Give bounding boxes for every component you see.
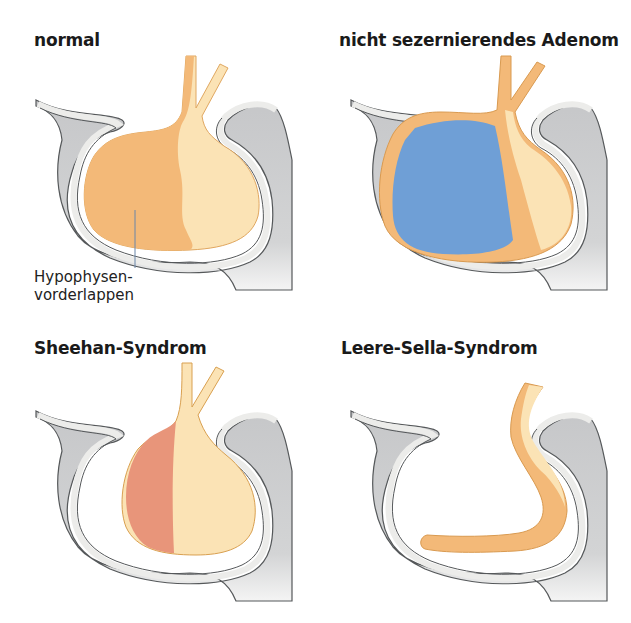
panel-title: Leere-Sella-Syndrom	[341, 338, 537, 358]
panel-normal-text: normal Hypophysen- vorderlappen	[0, 0, 315, 311]
panel-adenoma-text: nicht sezernierendes Adenom	[315, 0, 630, 311]
annotation-label: Hypophysen- vorderlappen	[34, 268, 134, 304]
panel-sheehan-text: Sheehan-Syndrom	[0, 311, 315, 622]
annotation-line-1: Hypophysen-	[34, 268, 134, 286]
panel-title: normal	[34, 30, 100, 50]
panel-title: Sheehan-Syndrom	[34, 338, 207, 358]
panel-title: nicht sezernierendes Adenom	[339, 30, 619, 50]
annotation-line-2: vorderlappen	[34, 286, 134, 304]
panel-empty-sella-text: Leere-Sella-Syndrom	[315, 311, 630, 622]
